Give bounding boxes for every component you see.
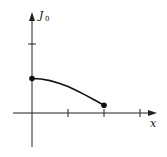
y-axis-arrow-icon [29,12,35,21]
chart-canvas: J 0 x [0,0,167,157]
x-axis-label: x [150,117,157,130]
x-axis-arrow-icon [148,110,157,116]
data-line [32,79,104,106]
endpoint-markers [29,76,107,108]
y-axis-label: J [37,9,44,22]
endpoint-dot [101,102,107,108]
endpoint-dot [29,76,35,82]
y-axis-label-subscript: 0 [45,15,49,23]
